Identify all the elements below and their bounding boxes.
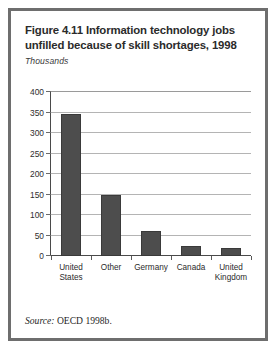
x-axis-label: Canada bbox=[177, 263, 206, 273]
bar bbox=[141, 231, 162, 256]
y-tick-label-250: 250 bbox=[30, 149, 44, 159]
y-tick-label-0: 0 bbox=[39, 251, 44, 261]
y-tick-mark-150 bbox=[46, 194, 51, 195]
y-tick-mark-100 bbox=[46, 214, 51, 215]
y-tick-label-200: 200 bbox=[30, 169, 44, 179]
source-text: OECD 1998b. bbox=[54, 315, 111, 326]
y-tick-mark-350 bbox=[46, 112, 51, 113]
plot-area: 050100150200250300350400 United StatesOt… bbox=[51, 92, 251, 256]
bar bbox=[61, 114, 82, 256]
x-tick-mark bbox=[211, 256, 212, 260]
y-tick-mark-400 bbox=[46, 91, 51, 92]
x-tick-mark bbox=[131, 256, 132, 260]
gridline-350 bbox=[51, 112, 251, 113]
figure-title-block: Figure 4.11 Information technology jobs … bbox=[25, 23, 257, 66]
source-note: Source: OECD 1998b. bbox=[25, 315, 112, 326]
y-axis-units-label: Thousands bbox=[25, 56, 257, 66]
figure-title-line-1: Figure 4.11 Information technology jobs bbox=[25, 23, 257, 38]
bar bbox=[181, 246, 202, 256]
y-axis-line bbox=[50, 92, 51, 256]
y-tick-label-350: 350 bbox=[30, 108, 44, 118]
bar bbox=[221, 248, 242, 256]
x-tick-mark bbox=[51, 256, 52, 260]
figure-title-line-2: unfilled because of skill shortages, 199… bbox=[25, 38, 257, 53]
x-axis-label: Germany bbox=[134, 263, 168, 273]
figure-frame: Figure 4.11 Information technology jobs … bbox=[8, 8, 268, 341]
x-tick-mark bbox=[91, 256, 92, 260]
bar bbox=[101, 195, 122, 256]
y-tick-mark-250 bbox=[46, 153, 51, 154]
gridline-400 bbox=[46, 91, 251, 92]
source-label: Source: bbox=[25, 315, 54, 326]
y-tick-mark-50 bbox=[46, 235, 51, 236]
y-tick-label-400: 400 bbox=[30, 87, 44, 97]
x-tick-mark bbox=[171, 256, 172, 260]
x-tick-mark bbox=[251, 256, 252, 260]
y-tick-mark-200 bbox=[46, 173, 51, 174]
y-tick-label-50: 50 bbox=[35, 231, 44, 241]
y-tick-label-300: 300 bbox=[30, 128, 44, 138]
y-tick-mark-300 bbox=[46, 132, 51, 133]
figure-inner-border: Figure 4.11 Information technology jobs … bbox=[11, 11, 265, 338]
page-title: Figure 4.11 Information technology jobs … bbox=[25, 23, 257, 52]
x-axis-label: Other bbox=[101, 263, 121, 273]
chart-container: 050100150200250300350400 United StatesOt… bbox=[25, 84, 257, 289]
x-axis-label: United States bbox=[59, 263, 83, 283]
y-tick-label-150: 150 bbox=[30, 190, 44, 200]
y-tick-label-100: 100 bbox=[30, 210, 44, 220]
x-axis-label: United Kingdom bbox=[215, 263, 247, 283]
